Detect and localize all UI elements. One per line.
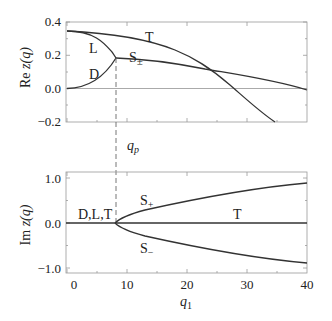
annotation-T-bottom: T [233, 207, 242, 222]
ytick-0.2: 0.2 [45, 47, 61, 62]
xtick-10: 10 [121, 277, 134, 292]
ytick-neg0.2: −0.2 [37, 114, 61, 129]
xlabel: q1 [180, 294, 192, 311]
top-ytick-labels: 0.4 0.2 0.0 −0.2 [37, 14, 61, 129]
ytick-neg1.0: −1.0 [37, 261, 61, 276]
ytick-0.0-bottom: 0.0 [45, 216, 61, 231]
xtick-0: 0 [71, 277, 78, 292]
ytick-0.0: 0.0 [45, 81, 61, 96]
bottom-panel: 1.0 0.0 −1.0 0 10 20 30 40 q1 Im z(q) D,… [18, 171, 314, 311]
annotation-T-top: T [145, 30, 154, 45]
xtick-20: 20 [181, 277, 194, 292]
ytick-0.4: 0.4 [45, 14, 62, 29]
ytick-1.0: 1.0 [45, 171, 61, 186]
annotation-D: D [89, 67, 99, 82]
top-panel: 0.4 0.2 0.0 −0.2 Re z(q) T L D S± [18, 14, 307, 129]
annotation-S-minus: S− [140, 241, 154, 258]
top-curves [67, 31, 307, 122]
xtick-40: 40 [301, 277, 314, 292]
top-ticks [66, 22, 307, 122]
annotation-S-plus: S+ [140, 193, 154, 210]
xtick-labels: 0 10 20 30 40 [71, 277, 314, 292]
top-plot-frame [66, 22, 307, 122]
annotation-L: L [89, 41, 98, 56]
top-ylabel: Re z(q) [18, 47, 34, 88]
bottom-curves [66, 183, 307, 263]
annotation-DLT: D,L,T [78, 207, 113, 222]
chart-figure: 0.4 0.2 0.0 −0.2 Re z(q) T L D S± qp [0, 0, 332, 321]
curve-S-pm [116, 58, 307, 90]
annotation-S-pm: S± [129, 50, 143, 67]
qp-label: qp [127, 138, 139, 155]
bottom-ytick-labels: 1.0 0.0 −1.0 [37, 171, 61, 276]
xtick-30: 30 [241, 277, 254, 292]
bottom-ylabel: Im z(q) [18, 204, 34, 245]
